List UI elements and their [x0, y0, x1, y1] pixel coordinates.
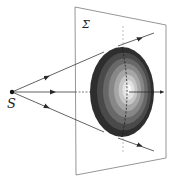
plane-label: Σ: [81, 18, 90, 31]
ray-lower-out: [118, 138, 154, 151]
ellipsoid-projection-diagram: S Σ: [0, 0, 170, 184]
ray-lower-in: [12, 92, 104, 132]
ray-upper-in: [12, 52, 104, 92]
source-label: S: [7, 96, 16, 111]
source-point: [10, 90, 14, 94]
